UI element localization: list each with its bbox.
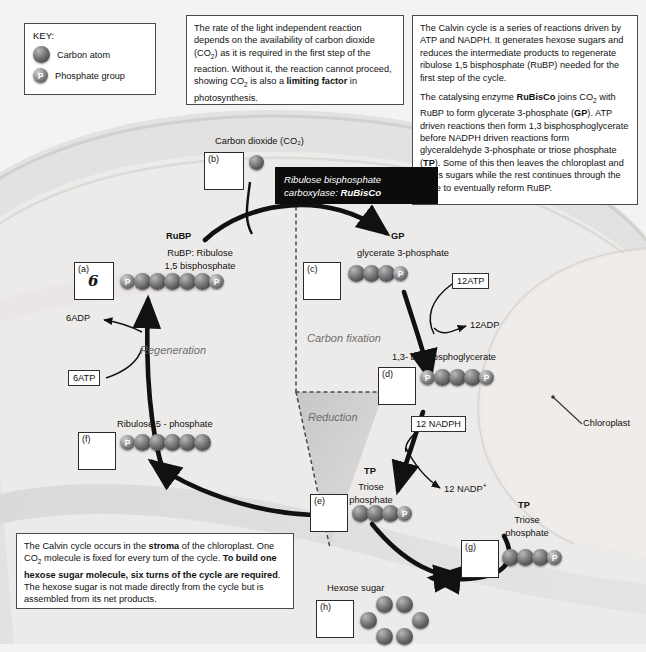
- note-calvin-para-2: The catalysing enzyme RuBisCo joins CO2 …: [420, 91, 630, 194]
- carbon-atom-icon: [412, 612, 429, 629]
- molecule-ribulose-5-phosphate: P: [120, 434, 209, 451]
- label-gp-title: GP: [391, 231, 404, 241]
- carbon-atom-icon: [396, 628, 413, 645]
- phosphate-group-icon: P: [393, 266, 408, 281]
- molecule-tp: P: [352, 505, 411, 522]
- answer-box-b-tag: (b): [208, 154, 219, 164]
- label-tp2-sub1: Triose: [492, 515, 562, 525]
- answer-box-h-tag: (h): [320, 602, 331, 612]
- sector-carbon-fixation: Carbon fixation: [307, 332, 381, 344]
- answer-box-f: (f): [78, 432, 116, 470]
- answer-box-g: (g): [461, 540, 499, 578]
- cofactor-12-nadp-plus: 12 NADP+: [444, 482, 487, 494]
- phosphate-group-icon: P: [120, 274, 135, 289]
- sector-reduction: Reduction: [308, 411, 358, 423]
- note-calvin-para-1: The Calvin cycle is a series of reaction…: [420, 22, 630, 84]
- note-stroma: The Calvin cycle occurs in the stroma of…: [16, 533, 294, 609]
- phosphate-group-icon: P: [547, 550, 562, 565]
- answer-box-e: (e): [310, 494, 348, 532]
- label-tp-title: TP: [364, 466, 376, 476]
- label-rubp-sub1: RuBP: Ribulose: [145, 248, 255, 258]
- molecule-hexose-sugar: [358, 596, 432, 652]
- label-hexose-sugar: Hexose sugar: [327, 583, 384, 593]
- carbon-atom-icon: [249, 155, 264, 170]
- enzyme-label: Ribulose bisphosphate carboxylase: RuBis…: [275, 167, 438, 204]
- note-stroma-text: The Calvin cycle occurs in the stroma of…: [24, 540, 286, 606]
- label-carbon-dioxide: Carbon dioxide (CO₂): [215, 136, 304, 146]
- key-label-phosphate: Phosphate group: [55, 71, 125, 81]
- key-row-phosphate: P Phosphate group: [33, 68, 147, 83]
- note-calvin-cycle: The Calvin cycle is a series of reaction…: [412, 15, 638, 205]
- answer-box-a: (a) 6: [74, 262, 114, 300]
- phosphate-group-icon: P: [33, 68, 48, 83]
- label-chloroplast: Chloroplast: [583, 418, 630, 428]
- molecule-bpg: P P: [420, 369, 493, 386]
- enzyme-name: RuBisCo: [341, 187, 382, 198]
- carbon-atom-icon: [360, 612, 377, 629]
- answer-box-c-tag: (c): [307, 264, 318, 274]
- label-rubp-title: RuBP: [166, 231, 191, 241]
- note-limiting-factor-text: The rate of the light independent reacti…: [194, 22, 396, 104]
- answer-box-h: (h): [316, 600, 354, 638]
- cofactor-12adp: 12ADP: [470, 320, 499, 330]
- phosphate-group-icon: P: [420, 370, 435, 385]
- enzyme-line-1: Ribulose bisphosphate: [284, 173, 438, 186]
- molecule-co2: [249, 155, 262, 170]
- answer-box-d-tag: (d): [382, 369, 393, 379]
- enzyme-line-2: carboxylase: RuBisCo: [284, 186, 438, 199]
- key-title: KEY:: [33, 30, 147, 41]
- carbon-atom-icon: [396, 596, 413, 613]
- phosphate-group-icon: P: [209, 274, 224, 289]
- answer-box-d: (d): [378, 367, 416, 405]
- key-label-carbon: Carbon atom: [57, 50, 110, 60]
- molecule-tp-exported: P: [502, 549, 561, 566]
- cofactor-6adp: 6ADP: [66, 313, 90, 323]
- answer-box-a-value: 6: [88, 272, 98, 290]
- enzyme-line-2-prefix: carboxylase:: [284, 187, 341, 198]
- answer-box-e-tag: (e): [314, 496, 325, 506]
- label-tp2-sub2: phosphate: [492, 528, 562, 538]
- phosphate-group-icon: P: [397, 506, 412, 521]
- answer-box-g-tag: (g): [465, 542, 476, 552]
- note-limiting-factor: The rate of the light independent reacti…: [186, 15, 404, 105]
- molecule-rubp: P P: [120, 273, 223, 290]
- cofactor-12atp: 12ATP: [452, 273, 489, 289]
- carbon-atom-icon: [376, 596, 393, 613]
- label-tp2-title: TP: [518, 500, 530, 510]
- cofactor-12-nadph: 12 NADPH: [411, 416, 466, 432]
- carbon-atom-icon: [376, 628, 393, 645]
- cofactor-6atp: 6ATP: [68, 370, 100, 386]
- carbon-atom-icon: [33, 46, 50, 63]
- label-tp-sub1: Triose: [336, 482, 406, 492]
- label-rubp-sub2: 1,5 bisphosphate: [145, 261, 255, 271]
- label-bpg-title: 1,3- bisphosphoglycerate: [392, 352, 496, 362]
- label-ribulose-5-phosphate: Ribulose 5 - phosphate: [117, 419, 213, 429]
- carbon-atom-icon: [194, 434, 211, 451]
- key-row-carbon: Carbon atom: [33, 46, 147, 63]
- phosphate-group-icon: P: [120, 435, 135, 450]
- sector-regeneration: Regeneration: [140, 344, 206, 356]
- label-gp-sub: glycerate 3-phosphate: [340, 248, 466, 258]
- answer-box-c: (c): [303, 262, 341, 300]
- answer-box-f-tag: (f): [82, 434, 91, 444]
- molecule-gp: P: [348, 265, 407, 282]
- key-legend: KEY: Carbon atom P Phosphate group: [24, 23, 156, 95]
- answer-box-b: (b): [204, 152, 244, 190]
- phosphate-group-icon: P: [479, 370, 494, 385]
